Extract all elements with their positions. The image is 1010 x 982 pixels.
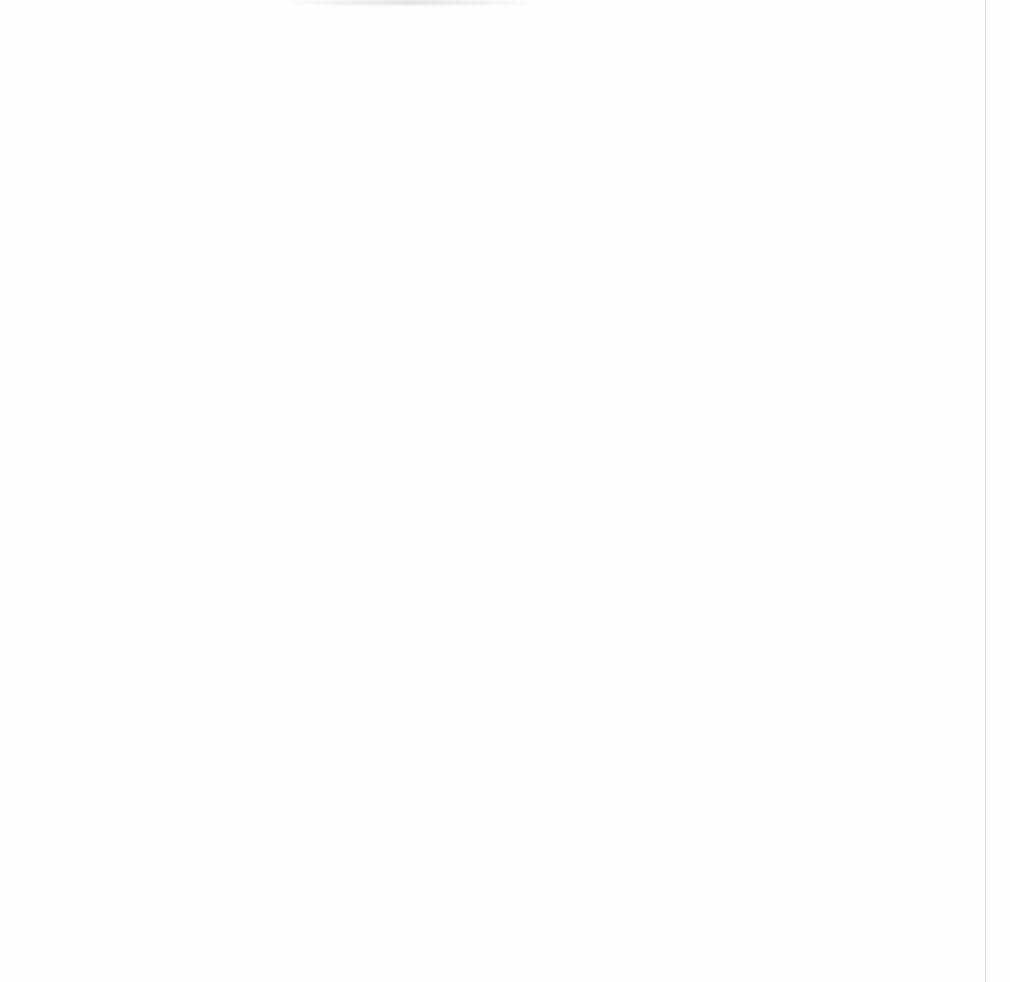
surface-svg-c (0, 491, 505, 921)
surface-svg-b (505, 0, 1010, 430)
surface-plot-c (0, 491, 505, 921)
figure-panel-d (505, 491, 1010, 982)
surface-svg-d (505, 491, 1010, 921)
figure-panel-b (505, 0, 1010, 491)
surface-svg-a (0, 0, 505, 430)
surface-plot-d (505, 491, 1010, 921)
surface-plot-a (0, 0, 505, 430)
figure-panel-a (0, 0, 505, 491)
figure-grid (0, 0, 1010, 982)
surface-plot-b (505, 0, 1010, 430)
scanned-page (0, 0, 1010, 982)
figure-panel-c (0, 491, 505, 982)
